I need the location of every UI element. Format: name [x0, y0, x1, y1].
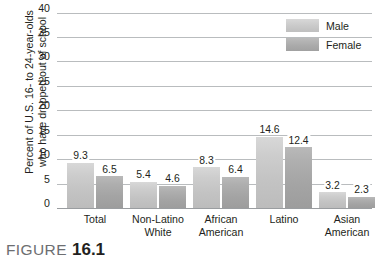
- legend: MaleFemale: [286, 17, 372, 55]
- figure-caption-word: FIGURE: [6, 241, 67, 257]
- bar-group: 9.36.5: [67, 0, 123, 209]
- bar-value-label: 2.3: [353, 184, 370, 195]
- y-axis-tick-label: 30: [38, 50, 50, 62]
- bar-value-label: 14.6: [258, 124, 281, 135]
- y-axis-title-line-2: who have dropped out of school: [36, 17, 50, 167]
- bar-value-label: 12.4: [287, 135, 310, 146]
- y-axis-tick-label: 40: [38, 2, 50, 14]
- x-axis-category-label: AsianAmerican: [305, 213, 379, 238]
- bar-female[interactable]: 12.4: [285, 147, 312, 208]
- bar-value-label: 9.3: [72, 150, 89, 161]
- bar-female[interactable]: 4.6: [159, 186, 186, 208]
- legend-item-female[interactable]: Female: [286, 36, 372, 53]
- bar-value-label: 8.3: [198, 155, 215, 166]
- bar-value-label: 5.4: [135, 169, 152, 180]
- bar-group: 5.44.6: [130, 0, 186, 209]
- y-axis-tick-label: 20: [38, 99, 50, 111]
- legend-item-male[interactable]: Male: [286, 17, 372, 34]
- figure-caption-number: 16.1: [72, 240, 105, 257]
- legend-swatch-female: [286, 38, 319, 51]
- legend-swatch-male: [286, 19, 319, 32]
- y-axis-tick-label: 15: [38, 124, 50, 136]
- bar-value-label: 4.6: [164, 173, 181, 184]
- bar-male[interactable]: 3.2: [319, 192, 346, 208]
- bar-male[interactable]: 5.4: [130, 182, 157, 208]
- bar-male[interactable]: 8.3: [193, 167, 220, 208]
- y-axis-tick-label: 35: [38, 26, 50, 38]
- bar-male[interactable]: 9.3: [67, 163, 94, 208]
- bar-value-label: 3.2: [324, 180, 341, 191]
- bar-value-label: 6.5: [101, 164, 118, 175]
- y-axis-tick-label: 5: [44, 173, 50, 185]
- legend-label: Female: [326, 39, 361, 51]
- bar-female[interactable]: 6.4: [222, 177, 249, 208]
- legend-label: Male: [326, 20, 349, 32]
- bar-male[interactable]: 14.6: [256, 137, 283, 208]
- y-axis-tick-label: 0: [44, 197, 50, 209]
- bar-value-label: 6.4: [227, 164, 244, 175]
- y-axis-title-line-1: Percent of U.S. 16- to 24-year-olds: [23, 10, 37, 174]
- y-axis-tick-label: 10: [38, 148, 50, 160]
- x-axis-category-line: Asian: [305, 213, 379, 226]
- y-axis-tick-label: 25: [38, 75, 50, 87]
- bar-group: 8.36.4: [193, 0, 249, 209]
- figure-caption: FIGURE 16.1: [6, 240, 105, 257]
- bar-female[interactable]: 2.3: [348, 197, 375, 208]
- x-axis-category-line: American: [305, 226, 379, 239]
- x-axis-category-line: American: [179, 226, 263, 239]
- bar-female[interactable]: 6.5: [96, 176, 123, 208]
